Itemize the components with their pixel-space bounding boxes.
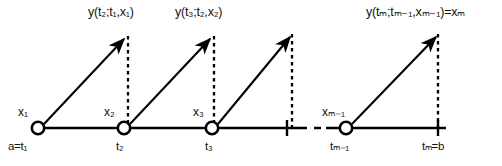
state-label-xm1: xₘ₋₁: [322, 106, 345, 118]
node-marker-t2: [118, 122, 130, 134]
time-label-t1: a=t₁: [8, 141, 27, 153]
trajectory-arrow-3: [218, 37, 290, 124]
state-label-x1: x₁: [18, 106, 28, 118]
dashed-drop-lines: [128, 34, 438, 127]
arrow-label-seg2: y(t₃;t₂,x₂): [175, 6, 222, 19]
trajectory-diagram: y(t₂;t₁,x₁) y(t₃;t₂,x₂) y(tₘ;tₘ₋₁,xₘ₋₁)=…: [0, 0, 502, 166]
time-label-t3: t₃: [205, 141, 212, 153]
trajectory-arrow-m: [352, 37, 436, 124]
node-marker-t1: [32, 122, 44, 134]
state-label-x2: x₂: [104, 106, 115, 118]
node-marker-t3: [206, 122, 218, 134]
time-label-t2: t₂: [116, 141, 123, 153]
node-marker-tm1: [340, 122, 352, 134]
arrow-label-seg1: y(t₂;t₁,x₁): [88, 6, 134, 19]
state-label-x3: x₃: [193, 106, 204, 118]
time-label-tm1: tₘ₋₁: [330, 141, 349, 153]
trajectory-arrows: [44, 37, 436, 124]
time-label-tm: tₘ=b: [422, 141, 444, 153]
arrow-label-segm: y(tₘ;tₘ₋₁,xₘ₋₁)=xₘ: [366, 6, 465, 19]
